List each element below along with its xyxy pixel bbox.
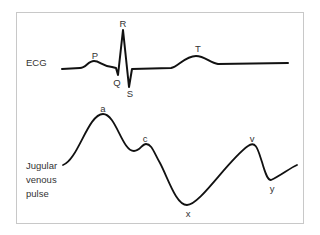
jvp-c-wave-label: c <box>143 133 148 144</box>
jvp-label-line-1: Jugular <box>26 159 57 173</box>
jvp-label-line-2: venous <box>26 173 57 187</box>
jvp-x-descent-label: x <box>186 208 191 219</box>
ecg-r-wave-label: R <box>120 18 127 29</box>
jvp-a-wave-label: a <box>100 103 105 114</box>
ecg-q-wave-label: Q <box>113 77 120 88</box>
ecg-t-wave-label: T <box>195 43 201 54</box>
jvp-y-descent-label: y <box>270 183 275 194</box>
jvp-trace <box>63 114 297 205</box>
ecg-s-wave-label: S <box>127 88 133 99</box>
jvp-label-line-3: pulse <box>26 187 57 201</box>
jvp-label: Jugular venous pulse <box>26 159 57 201</box>
jvp-v-wave-label: v <box>250 133 255 144</box>
ecg-p-wave-label: P <box>92 50 98 61</box>
ecg-label: ECG <box>26 56 47 70</box>
